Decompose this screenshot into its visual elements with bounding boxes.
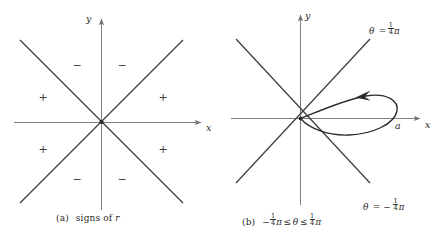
label-theta-equals-negative-quarter-pi: θ =−14π	[363, 198, 404, 212]
caption-b-tag: (b)	[242, 217, 255, 227]
caption-a-tag: (a)	[56, 213, 69, 223]
sign-plus-right-upper: +	[157, 92, 169, 103]
figure-lemniscate-signs: y x − − + + + + − − (a)signs of r	[0, 0, 446, 240]
fraction-one-quarter-upper: 14	[388, 22, 393, 36]
caption-a-text: signs of	[76, 213, 112, 223]
panel-lemniscate-loop: y x a θ =14π θ =−14π (b)−14π≤θ≤14π	[223, 0, 446, 240]
pi-symbol-upper: π	[394, 26, 400, 36]
sign-plus-left-upper: +	[37, 92, 49, 103]
loop-vertex-label-a: a	[395, 121, 401, 131]
y-axis-label: y	[86, 14, 91, 24]
sign-minus-upper-left: −	[71, 60, 83, 71]
theta-symbol-lower: θ	[363, 202, 368, 212]
sign-plus-right-lower: +	[157, 144, 169, 155]
x-axis-label: x	[425, 120, 430, 130]
pi-symbol-lower: π	[399, 202, 405, 212]
sign-minus-lower-right: −	[116, 174, 128, 185]
caption-relation-left: ≤	[282, 217, 293, 227]
sign-plus-left-lower: +	[37, 144, 49, 155]
caption-pi-right: π	[315, 217, 321, 227]
equals-sign-upper: =	[377, 26, 388, 36]
caption-a-variable: r	[115, 213, 119, 223]
minus-sign-lower: −	[382, 202, 393, 212]
theta-symbol-upper: θ	[369, 26, 374, 36]
caption-b-leading-minus: −	[262, 217, 270, 227]
sign-minus-upper-right: −	[116, 60, 128, 71]
panel-a-graphic	[0, 0, 223, 240]
panel-signs-of-r: y x − − + + + + − − (a)signs of r	[0, 0, 223, 240]
equals-sign-lower: =	[371, 202, 382, 212]
panel-b-graphic	[223, 0, 446, 240]
lemniscate-loop-curve	[301, 95, 398, 135]
origin-point	[99, 120, 103, 124]
label-theta-equals-quarter-pi: θ =14π	[369, 22, 400, 36]
fraction-one-quarter-lower: 14	[393, 198, 398, 212]
origin-point	[299, 117, 303, 121]
sign-minus-lower-left: −	[71, 174, 83, 185]
caption-panel-b: (b)−14π≤θ≤14π	[242, 213, 321, 227]
caption-relation-right: ≤	[298, 217, 309, 227]
caption-panel-a: (a)signs of r	[56, 213, 120, 223]
x-axis-label: x	[206, 123, 211, 133]
y-axis-label: y	[305, 11, 310, 21]
